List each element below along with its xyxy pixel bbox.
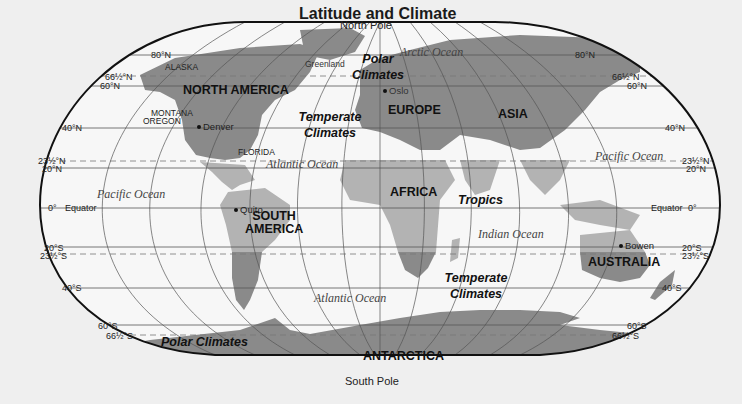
lat-label-left: 40°N <box>62 124 82 133</box>
lat-label-left: 60°S <box>98 322 118 331</box>
ocean-indian: Indian Ocean <box>478 228 544 240</box>
continent-asia: ASIA <box>498 108 528 121</box>
lat-label-left: 0° <box>48 204 57 213</box>
city-bowen: Bowen <box>619 241 654 251</box>
continent-north-america: NORTH AMERICA <box>183 84 253 97</box>
continent-europe: EUROPE <box>388 104 441 117</box>
lat-label-right: 20°N <box>686 165 706 174</box>
ocean-atlantic-north: Atlantic Ocean <box>266 158 338 170</box>
ocean-atlantic-south: Atlantic Ocean <box>314 292 386 304</box>
place-alaska: ALASKA <box>165 63 198 72</box>
continent-africa: AFRICA <box>390 186 437 199</box>
lat-label-right: 0° <box>688 204 697 213</box>
lat-label-right: 23½°S <box>682 252 709 261</box>
lat-label-left: 23½°S <box>40 252 67 261</box>
lat-label-right: 66½°S <box>612 332 639 341</box>
south-pole-label: South Pole <box>345 376 399 387</box>
lat-label-left: 20°N <box>42 165 62 174</box>
ocean-arctic: Arctic Ocean <box>400 46 463 58</box>
city-denver: Denver <box>197 122 234 132</box>
lat-label-left: 40°S <box>62 284 82 293</box>
equator-label-right: Equator <box>651 204 683 213</box>
lat-label-right: 80°N <box>575 51 595 60</box>
north-pole-label: North Pole <box>340 20 392 31</box>
lat-label-left: 66½°S <box>106 332 133 341</box>
place-florida: FLORIDA <box>238 148 275 157</box>
zone-polar-south: Polar Climates <box>161 335 248 351</box>
zone-tropics: Tropics <box>458 193 503 209</box>
lat-label-left: 80°N <box>151 51 171 60</box>
equator-label-left: Equator <box>65 204 97 213</box>
lat-label-right: 40°N <box>665 124 685 133</box>
city-quito: Quito <box>234 205 263 215</box>
city-marker-icon <box>234 208 238 212</box>
ocean-pacific-west: Pacific Ocean <box>97 188 165 200</box>
continent-antarctica: ANTARCTICA <box>363 350 444 363</box>
zone-polar-north: Polar Climates <box>350 52 406 83</box>
city-marker-icon <box>383 89 387 93</box>
lat-label-right: 40°S <box>662 284 682 293</box>
city-marker-icon <box>619 244 623 248</box>
city-oslo: Oslo <box>383 86 409 96</box>
place-greenland: Greenland <box>305 60 345 69</box>
zone-temperate-north: Temperate Climates <box>292 110 368 141</box>
lat-label-left: 60°N <box>100 82 120 91</box>
ocean-pacific-east: Pacific Ocean <box>595 150 663 162</box>
city-marker-icon <box>197 125 201 129</box>
place-oregon: OREGON <box>143 117 181 126</box>
continent-australia: AUSTRALIA <box>588 256 660 269</box>
lat-label-right: 60°S <box>627 322 647 331</box>
zone-temperate-south: Temperate Climates <box>438 271 514 302</box>
lat-label-right: 60°N <box>627 82 647 91</box>
